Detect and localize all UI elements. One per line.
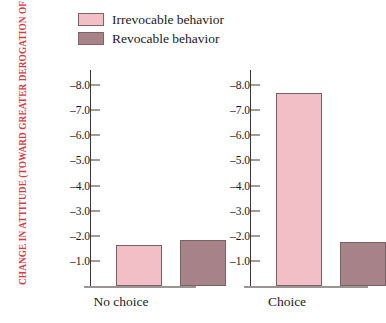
y-axis-tick-label: –2.0 [46, 230, 94, 242]
y-axis-tick-label: –8.0 [46, 79, 94, 91]
y-axis-tick-label: –4.0 [46, 180, 94, 192]
legend-swatch-irrevocable [78, 13, 104, 26]
y-axis-tick-label: –6.0 [46, 129, 94, 141]
baseline [244, 286, 368, 288]
bar-choice-irrevocable [276, 93, 322, 286]
legend-label-revocable: Revocable behavior [112, 32, 220, 46]
y-axis-tick-label: –3.0 [206, 205, 254, 217]
legend-label-irrevocable: Irrevocable behavior [112, 13, 224, 27]
chart-panel-no-choice: –1.0–2.0–3.0–4.0–5.0–6.0–7.0–8.0No choic… [46, 70, 196, 286]
y-axis-tick-label: –5.0 [206, 154, 254, 166]
plot-area-no-choice: –1.0–2.0–3.0–4.0–5.0–6.0–7.0–8.0No choic… [46, 70, 196, 286]
y-axis-tick-label: –3.0 [46, 205, 94, 217]
chart-panel-choice: –1.0–2.0–3.0–4.0–5.0–6.0–7.0–8.0Choice [206, 70, 368, 286]
bar-no-choice-irrevocable [116, 245, 162, 286]
y-axis-line [250, 70, 251, 286]
y-axis-tick-label: –4.0 [206, 180, 254, 192]
x-axis-category-label: Choice [206, 294, 368, 310]
legend-item-irrevocable: Irrevocable behavior [78, 10, 298, 29]
x-axis-category-label: No choice [46, 294, 196, 310]
legend-item-revocable: Revocable behavior [78, 29, 298, 48]
y-axis-line [90, 70, 91, 286]
y-axis-tick-label: –7.0 [46, 104, 94, 116]
y-axis-tick-label: –2.0 [206, 230, 254, 242]
y-axis-tick-label: –8.0 [206, 79, 254, 91]
y-axis-tick-label: –5.0 [46, 154, 94, 166]
y-axis-title-container: CHANGE IN ATTITUDE (TOWARD GREATER DEROG… [0, 60, 46, 290]
baseline [84, 286, 196, 288]
y-axis-tick-label: –1.0 [206, 255, 254, 267]
y-axis-tick-label: –7.0 [206, 104, 254, 116]
legend-swatch-revocable [78, 32, 104, 45]
plot-area-choice: –1.0–2.0–3.0–4.0–5.0–6.0–7.0–8.0Choice [206, 70, 368, 286]
y-axis-title: CHANGE IN ATTITUDE (TOWARD GREATER DEROG… [18, 65, 29, 285]
y-axis-tick-label: –6.0 [206, 129, 254, 141]
chart-legend: Irrevocable behavior Revocable behavior [78, 10, 298, 48]
y-axis-tick-label: –1.0 [46, 255, 94, 267]
bar-choice-revocable [340, 242, 386, 286]
